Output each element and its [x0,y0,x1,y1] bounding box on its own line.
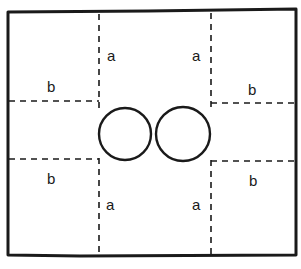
diagram-canvas: a a a a b b b b [0,0,301,269]
label-a-top-right: a [192,47,201,64]
label-b-upper-right: b [248,81,256,98]
left-circle-opening [99,108,151,160]
label-a-bottom-left: a [106,196,115,213]
label-b-lower-right: b [249,172,257,189]
label-b-lower-left: b [47,170,55,187]
label-b-upper-left: b [47,78,55,95]
label-a-top-left: a [107,47,116,64]
right-circle-opening [156,107,210,161]
label-a-bottom-right: a [192,196,201,213]
